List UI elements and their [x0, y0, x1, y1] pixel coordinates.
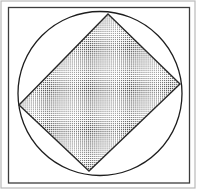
figure-container [0, 0, 198, 191]
geometry-diagram [0, 0, 198, 191]
